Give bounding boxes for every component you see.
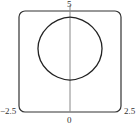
x-tick-right: 2.5 xyxy=(124,107,135,116)
x-tick-origin: 0 xyxy=(67,116,72,125)
y-tick-top: 5 xyxy=(67,0,72,9)
plot-area xyxy=(0,0,140,127)
x-tick-left: −2.5 xyxy=(0,107,16,116)
